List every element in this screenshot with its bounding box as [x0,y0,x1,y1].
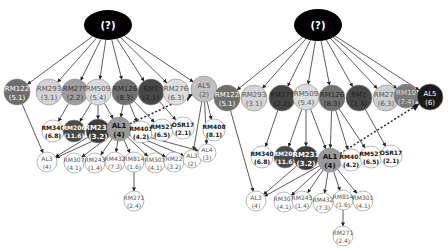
node-al5[interactable]: AL5(6) [417,84,443,110]
node-rm243[interactable]: RM243(1.4) [292,191,313,211]
node-value-label: (3.1) [41,94,58,102]
node-name-label: RM126 [320,91,345,99]
node-rm279[interactable]: RM279(2.2) [269,85,295,111]
node-value-label: (4.1) [277,203,291,210]
node-value-label: (4.1) [148,164,162,171]
edge-rm122-to-al3a [22,104,43,153]
node-value-label: (8.3) [117,94,134,102]
node-rm276[interactable]: RM276(6.3) [163,79,189,105]
node-rm271[interactable]: RM271(2.4) [333,226,354,246]
node-name-label: RM231 [293,151,320,159]
node-value-label: (6.3) [168,94,185,102]
edge-rm231-to-al3 [264,166,297,195]
node-al3[interactable]: AL3(4) [246,191,266,211]
node-rm527[interactable]: RM527(6.5) [150,119,173,141]
node-rm243[interactable]: RM243(1.4) [85,153,106,173]
node-value-label: (6.5) [363,158,379,165]
edge-al1-to-rm432 [325,172,328,193]
node-value-label: (8.1) [206,131,222,138]
node-value-label: (1.4) [295,202,309,209]
node-name-label: RM126 [113,85,138,93]
node-rm126[interactable]: RM126(8.3) [319,85,345,111]
node-value-label: (2.1) [383,157,399,164]
node-rm340[interactable]: RM340(6.8) [250,146,273,168]
node-rm432[interactable]: RM432(7.3) [105,152,126,172]
edge-al5-to-rm408 [207,102,211,120]
node-value-label: (4.2) [343,161,359,168]
node-name-label: OSR17 [380,149,402,156]
edge-al1-to-rm814 [124,140,130,153]
node-value-label: (5.4) [90,94,107,102]
node-rm814[interactable]: RM814(1.6) [333,190,354,210]
node-rm279[interactable]: RM279(2.2) [62,79,88,105]
node-name-label: RM1 [351,91,366,99]
node-value-label: (2.2) [274,100,291,108]
node-rm293[interactable]: RM293(3.1) [241,85,267,111]
node-al5[interactable]: AL5(2) [191,76,217,102]
node-al1[interactable]: AL1(4) [318,148,342,172]
edge-al5-to-al3b [194,102,202,150]
root-node-label: (?) [101,20,116,31]
node-rm408[interactable]: RM408(8.1) [202,119,225,141]
node-value-label: (4.2) [133,133,149,140]
node-rm126[interactable]: RM126(8.3) [112,79,138,105]
node-value-label: (7.3) [316,204,330,211]
node-al3[interactable]: AL3(4) [37,152,57,172]
node-name-label: RM122 [5,85,29,93]
node-name-label: RM206 [62,124,85,131]
node-name-label: RM301 [145,156,166,163]
node-rm1[interactable]: RM1(1.3) [346,85,372,111]
node-name-label: RM301 [353,194,374,201]
node-value-label: (2) [199,91,209,99]
node-value-label: (1.6) [336,201,350,208]
edge-root-to-rm276 [331,39,377,89]
node-al4[interactable]: AL4(3) [198,144,216,162]
edge-al1-to-rm301 [338,169,357,193]
edge-rm126-to-al1 [121,105,123,117]
node-rm307[interactable]: RM307(4.1) [64,153,85,173]
node-rm122[interactable]: RM122(5.1) [4,79,30,105]
edge-root-to-rm276 [121,38,167,83]
node-rm1[interactable]: RM1(1.1) [138,79,164,105]
diagram-svg: (?)RM122(5.1)RM293(3.1)RM279(2.2)RM509(5… [0,0,448,249]
node-value-label: (6.8) [254,158,270,165]
node-osr17[interactable]: OSR17(2.1) [380,145,402,167]
nodes-layer: (?)RM122(5.1)RM293(3.1)RM279(2.2)RM509(5… [4,9,443,246]
node-value-label: (1.1) [143,94,160,102]
node-value-label: (6.8) [45,132,61,139]
edge-rm279-to-rm340 [266,110,278,146]
node-name-label: RM432 [313,196,334,203]
node-rm509[interactable]: RM509(5.4) [293,84,319,110]
root-node-right[interactable]: (?) [294,9,342,41]
node-rm401[interactable]: RM401(4.2) [129,121,152,143]
node-value-label: (2.2) [67,94,84,102]
node-value-label: (2.1) [175,129,191,136]
node-rm340[interactable]: RM340(6.8) [41,120,64,142]
node-rm231[interactable]: RM231(3.2) [293,146,320,170]
node-rm301[interactable]: RM301(4.1) [145,153,166,173]
node-rm293[interactable]: RM293(3.1) [36,79,62,105]
node-rm122[interactable]: RM122(5.1) [214,85,240,111]
node-rm509[interactable]: RM509(5.4) [85,79,111,105]
node-name-label: RM408 [202,123,225,130]
node-rm301[interactable]: RM301(4.1) [353,191,374,211]
edge-root-to-rm10 [333,37,396,88]
node-rm206[interactable]: RM206(11.6) [62,120,85,142]
node-rm22[interactable]: RM22(3.2) [164,152,184,172]
root-node-left[interactable]: (?) [84,10,132,40]
node-rm271[interactable]: RM271(2.4) [124,191,145,211]
node-rm10[interactable]: RM10(7.4) [394,84,418,108]
node-osr17[interactable]: OSR17(2.1) [172,117,194,139]
node-value-label: (4.1) [356,202,370,209]
node-name-label: RM340 [250,150,273,157]
edge-root-to-al5 [335,36,419,90]
node-rm432[interactable]: RM432(7.3) [313,193,334,213]
node-value-label: (8.3) [324,100,341,108]
node-value-label: (4.1) [67,164,81,171]
node-al1[interactable]: AL1(4) [107,117,131,141]
node-name-label: RM243 [85,156,106,163]
node-rm814[interactable]: RM814(1.6) [124,152,145,172]
node-name-label: RM307 [64,156,85,163]
edge-al1-to-rm814 [334,171,340,190]
node-value-label: (5.1) [9,94,26,102]
